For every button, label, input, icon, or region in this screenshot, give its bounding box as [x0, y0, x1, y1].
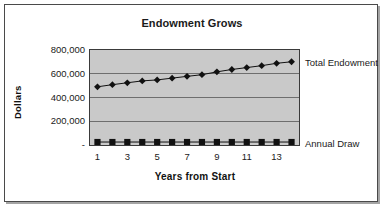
chart-title: Endowment Grows — [5, 17, 379, 29]
x-axis-tick-label: 5 — [155, 151, 160, 162]
x-axis-tick-label: 7 — [184, 151, 189, 162]
chart-frame: Endowment Grows Dollars -200,000400,0006… — [4, 4, 378, 202]
y-axis-tick-label: 200,000 — [29, 115, 85, 126]
x-axis-tick-label: 9 — [214, 151, 219, 162]
x-axis-tick-labels: 135791113 — [89, 151, 300, 165]
series-label-annual-draw: Annual Draw — [305, 138, 359, 149]
plot-area — [89, 49, 300, 146]
x-axis-tick-label: 1 — [95, 151, 100, 162]
y-axis-tick-label: - — [29, 139, 85, 150]
plot-svg — [90, 50, 299, 145]
x-axis-title: Years from Start — [65, 171, 325, 182]
x-axis-tick-label: 11 — [242, 151, 252, 162]
x-axis-tick-label: 13 — [271, 151, 282, 162]
x-axis-tick-label: 3 — [125, 151, 130, 162]
series-label-total-endowment: Total Endowment — [305, 57, 378, 68]
y-axis-tick-labels: -200,000400,000600,000800,000 — [27, 49, 85, 144]
y-axis-tick-label: 400,000 — [29, 91, 85, 102]
y-axis-title: Dollars — [11, 67, 25, 137]
y-axis-tick-label: 600,000 — [29, 67, 85, 78]
y-axis-tick-label: 800,000 — [29, 44, 85, 55]
